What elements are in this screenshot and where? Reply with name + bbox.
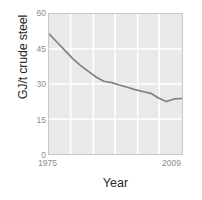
y-tick-label: 45 xyxy=(18,44,46,54)
y-tick-label: 30 xyxy=(18,79,46,89)
x-axis-title: Year xyxy=(48,176,183,190)
x-tick-label-start: 1975 xyxy=(38,158,57,168)
y-axis-tick-labels: 60 45 30 15 0 xyxy=(14,0,46,200)
y-tick-label: 60 xyxy=(18,8,46,18)
y-tick-label: 15 xyxy=(18,115,46,125)
plot-svg xyxy=(49,14,182,154)
x-tick-label-end: 2009 xyxy=(162,158,181,168)
plot-area xyxy=(48,13,183,155)
chart-figure: GJ/t crude steel 60 45 30 15 0 1975 2009… xyxy=(0,0,202,200)
